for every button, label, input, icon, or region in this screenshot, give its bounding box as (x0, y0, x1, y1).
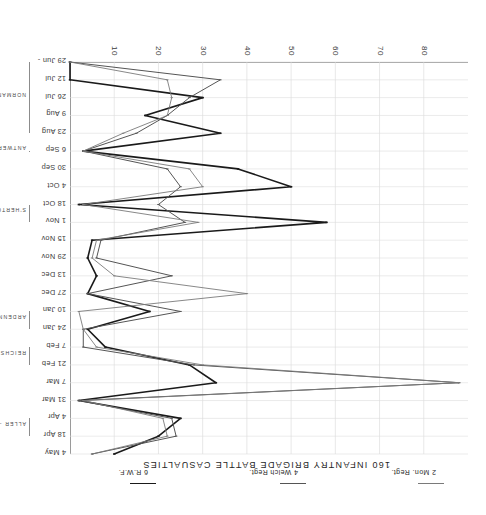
y-tick-label: 30 (199, 30, 208, 56)
campaign-label: ANTWERP (0, 145, 26, 151)
chart-screenshot: 1020304050607080 29 Jun -12 Jul26 Jul9 A… (0, 0, 486, 515)
x-tick-label: 23 Aug (42, 127, 66, 136)
x-tick-label: 21 Feb (42, 359, 66, 368)
campaign-rule (29, 418, 30, 436)
legend-swatch (418, 483, 444, 484)
campaign-label: ALLER - WESER (0, 421, 26, 427)
x-tick-label: 18 Oct (43, 199, 66, 208)
campaign-label: ARDENNES (0, 314, 26, 320)
campaign-rule (29, 151, 30, 152)
x-tick-label: 18 Apr (43, 430, 66, 439)
x-tick-label: 31 Mar (42, 395, 66, 404)
x-tick-label: 4 Apr (48, 412, 66, 421)
x-tick-label: 1 Nov (46, 216, 66, 225)
x-tick-label: 10 Jan (43, 305, 66, 314)
campaign-label: S'HERTOGENBOSCH (0, 207, 26, 213)
campaign-rule (29, 347, 30, 365)
x-tick-label: 13 Dec (41, 270, 66, 279)
legend-label: 2 Mon. Regt. (391, 469, 436, 476)
x-tick-label: 7 Mar (46, 377, 66, 386)
legend-swatch (130, 483, 156, 484)
x-tick-label: 29 Nov (41, 252, 66, 261)
campaign-label: REICHSWALD (0, 350, 26, 356)
x-tick-label: 9 Aug (46, 109, 66, 118)
legend-swatch (280, 483, 306, 484)
legend-label: 6 R.W.F. (118, 469, 148, 476)
x-tick-label: 6 Sep (46, 145, 66, 154)
x-tick-label: 12 Jul (45, 74, 66, 83)
x-tick-label: 7 Feb (46, 341, 66, 350)
chart-canvas (70, 62, 468, 454)
y-tick-label: 70 (376, 30, 385, 56)
casualties-line-chart: 1020304050607080 29 Jun -12 Jul26 Jul9 A… (0, 0, 486, 515)
x-tick-label: 4 May (45, 448, 66, 457)
x-tick-label: 4 Oct (47, 181, 66, 190)
y-tick-label: 50 (287, 30, 296, 56)
y-tick-label: 40 (243, 30, 252, 56)
rotated-figure: 1020304050607080 29 Jun -12 Jul26 Jul9 A… (0, 0, 486, 515)
y-tick-label: 80 (420, 30, 429, 56)
plot-area (70, 62, 468, 454)
x-tick-label: 26 Jul (45, 92, 66, 101)
y-tick-label: 60 (331, 30, 340, 56)
x-tick-label: 30 Sep (41, 163, 66, 172)
campaign-label: NORMANDY (0, 92, 26, 98)
campaign-rule (29, 311, 30, 329)
x-tick-label: 24 Jan (43, 323, 66, 332)
legend-label: 4 Welch Regt. (249, 469, 298, 476)
campaign-rule (29, 205, 30, 223)
y-tick-label: 10 (110, 30, 119, 56)
campaign-rule (29, 62, 30, 133)
x-tick-label: 29 Jun - (38, 56, 66, 65)
y-tick-label: 20 (154, 30, 163, 56)
x-tick-label: 27 Dec (41, 288, 66, 297)
x-tick-label: 15 Nov (41, 234, 66, 243)
